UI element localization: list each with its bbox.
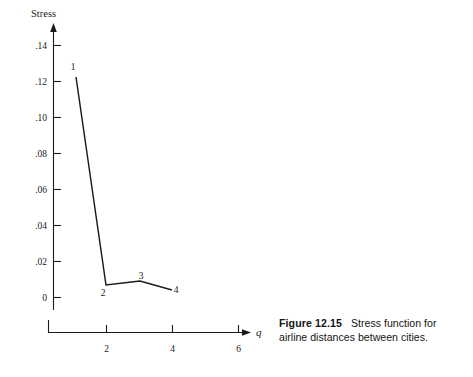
- y-tick-label-12: .12: [35, 77, 47, 87]
- y-tick-label-02: .02: [35, 257, 47, 267]
- figure-caption-label: Figure 12.15: [279, 317, 342, 329]
- figure-caption: Figure 12.15Stress function for airline …: [279, 316, 467, 344]
- figure-container: Stress .14 .12 .10 .08 .06 .04 .02 0 2 4…: [0, 0, 473, 377]
- x-axis-arrow-icon: [242, 329, 251, 336]
- y-axis-title: Stress: [31, 8, 56, 19]
- data-point-label-2: 2: [101, 288, 106, 298]
- x-axis-title: q: [256, 326, 262, 338]
- y-tick-label-10: .10: [35, 113, 47, 123]
- y-tick-label-04: .04: [35, 221, 47, 231]
- y-tick-label-0: 0: [42, 293, 47, 303]
- x-tick-label-2: 2: [104, 344, 109, 354]
- data-point-label-4: 4: [174, 285, 179, 295]
- y-tick-label-08: .08: [35, 149, 47, 159]
- x-tick-label-4: 4: [170, 344, 175, 354]
- x-tick-label-6: 6: [236, 344, 241, 354]
- stress-data-line: [76, 77, 172, 290]
- plot-svg: Stress .14 .12 .10 .08 .06 .04 .02 0 2 4…: [0, 0, 280, 377]
- stress-plot: Stress .14 .12 .10 .08 .06 .04 .02 0 2 4…: [0, 0, 280, 377]
- data-point-label-1: 1: [71, 62, 76, 72]
- y-axis-arrow-icon: [50, 23, 57, 32]
- y-tick-label-06: .06: [35, 185, 47, 195]
- y-tick-label-14: .14: [35, 41, 47, 51]
- data-point-label-3: 3: [139, 271, 144, 281]
